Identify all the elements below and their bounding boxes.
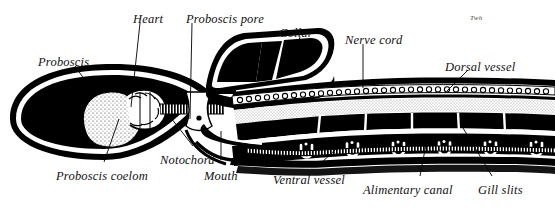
label-ventral-vessel: Ventral vessel	[273, 173, 345, 188]
label-collar: Collar	[279, 26, 313, 41]
artist-signature: Twh	[470, 14, 483, 22]
label-mouth: Mouth	[204, 169, 238, 184]
label-nerve-cord: Nerve cord	[345, 33, 402, 48]
label-proboscis-pore: Proboscis pore	[186, 12, 264, 27]
label-alimentary-canal: Alimentary canal	[363, 183, 453, 198]
label-proboscis-coelom: Proboscis coelom	[56, 169, 148, 184]
label-proboscis: Proboscis	[38, 55, 89, 70]
anatomy-figure: ProboscisHeartProboscis poreCollarNerve …	[0, 0, 555, 212]
label-heart: Heart	[133, 12, 163, 27]
label-notochord: Notochord	[160, 153, 215, 168]
label-gill-slits: Gill slits	[478, 183, 523, 198]
label-dorsal-vessel: Dorsal vessel	[445, 60, 515, 75]
